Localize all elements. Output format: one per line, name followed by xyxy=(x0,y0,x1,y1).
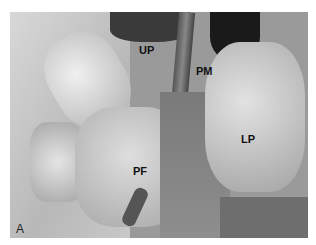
tissue-right xyxy=(205,42,305,192)
label-pf: PF xyxy=(133,165,147,177)
tissue-bottom-right xyxy=(220,197,308,238)
panel-label: A xyxy=(16,222,24,236)
label-pm: PM xyxy=(196,65,213,77)
label-lp: LP xyxy=(241,133,255,145)
label-up: UP xyxy=(139,44,154,56)
surgical-photo xyxy=(10,12,308,238)
